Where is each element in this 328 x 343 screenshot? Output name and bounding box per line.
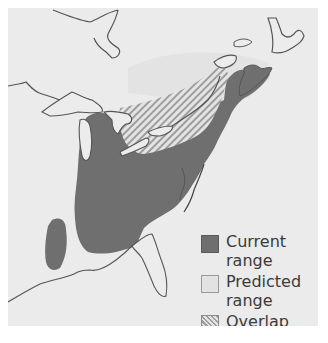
- predicted-range-swatch-icon: [201, 275, 219, 293]
- map-legend: Current range Predicted range Overlap: [201, 232, 318, 326]
- legend-label-line2: range: [226, 291, 273, 310]
- gulf-coastline: [8, 246, 132, 302]
- legend-label: Overlap: [226, 312, 289, 326]
- legend-item-current: Current range: [201, 232, 318, 270]
- overlap-swatch-icon: [201, 315, 219, 326]
- lake-superior: [42, 92, 102, 116]
- legend-label: Current range: [226, 232, 286, 270]
- newfoundland-coast: [268, 18, 304, 53]
- florida-peninsula: [132, 234, 167, 297]
- legend-label: Predicted range: [226, 272, 301, 310]
- legend-item-predicted: Predicted range: [201, 272, 318, 310]
- current-range-outlier: [45, 218, 67, 270]
- legend-item-overlap: Overlap: [201, 312, 318, 326]
- legend-label-line2: range: [226, 251, 273, 270]
- anticosti-island: [234, 39, 252, 47]
- legend-label-line1: Overlap: [226, 312, 289, 326]
- legend-label-line1: Predicted: [226, 272, 301, 291]
- current-range-swatch-icon: [201, 235, 219, 253]
- hudson-bay-coast: [53, 10, 120, 58]
- border-line: [8, 82, 60, 100]
- legend-label-line1: Current: [226, 232, 286, 251]
- map-panel: Current range Predicted range Overlap: [8, 8, 318, 326]
